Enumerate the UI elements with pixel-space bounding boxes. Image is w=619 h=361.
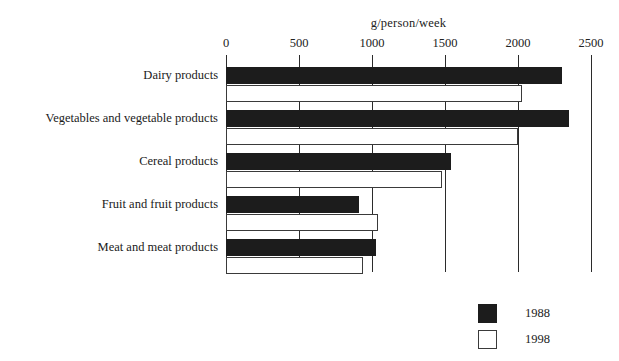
legend-item: 1988 bbox=[478, 300, 608, 326]
bar-1988 bbox=[226, 67, 562, 84]
bar-1998 bbox=[226, 85, 522, 102]
x-tick-label: 500 bbox=[290, 36, 309, 51]
gridline bbox=[591, 60, 592, 272]
legend-label: 1998 bbox=[525, 332, 550, 347]
category-label: Cereal products bbox=[10, 154, 226, 169]
x-tick-label: 2500 bbox=[579, 36, 604, 51]
chart-figure: g/person/week 05001000150020002500 Dairy… bbox=[0, 0, 619, 361]
legend-swatch-1988 bbox=[478, 304, 497, 323]
x-tick-label: 0 bbox=[223, 36, 229, 51]
y-axis-category-labels: Dairy productsVegetables and vegetable p… bbox=[0, 60, 226, 272]
legend-swatch-1998 bbox=[478, 330, 497, 349]
x-tick-label: 1000 bbox=[360, 36, 385, 51]
bar-1988 bbox=[226, 110, 569, 127]
legend-label: 1988 bbox=[525, 306, 550, 321]
bar-1988 bbox=[226, 153, 451, 170]
bars-layer bbox=[226, 60, 591, 272]
bar-1998 bbox=[226, 257, 363, 274]
bar-1988 bbox=[226, 239, 376, 256]
chart-legend: 19881998 bbox=[478, 300, 608, 352]
category-label: Vegetables and vegetable products bbox=[10, 111, 226, 126]
x-tick-label: 2000 bbox=[506, 36, 531, 51]
x-tick-label: 1500 bbox=[433, 36, 458, 51]
bar-1998 bbox=[226, 171, 442, 188]
x-tick-mark bbox=[591, 55, 592, 60]
category-label: Fruit and fruit products bbox=[10, 197, 226, 212]
category-label: Meat and meat products bbox=[10, 240, 226, 255]
bar-1998 bbox=[226, 214, 378, 231]
category-label: Dairy products bbox=[10, 68, 226, 83]
plot-area bbox=[226, 60, 591, 272]
x-axis-tick-labels: 05001000150020002500 bbox=[0, 0, 619, 20]
bar-1988 bbox=[226, 196, 359, 213]
bar-1998 bbox=[226, 128, 518, 145]
legend-item: 1998 bbox=[478, 326, 608, 352]
